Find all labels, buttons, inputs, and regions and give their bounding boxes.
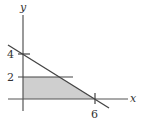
tick-label-x-6: 6 <box>91 108 98 121</box>
chart-plot: y x 4 2 6 <box>0 0 146 123</box>
tick-label-y-4: 4 <box>7 48 14 61</box>
shaded-region <box>23 77 95 99</box>
y-axis-label: y <box>19 1 27 14</box>
tick-label-y-2: 2 <box>7 71 14 84</box>
x-axis-label: x <box>130 92 137 105</box>
